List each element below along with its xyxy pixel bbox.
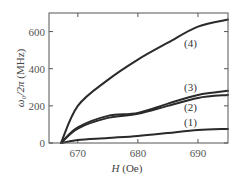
x-tick-label: 690 [190, 147, 207, 159]
curves [61, 20, 228, 144]
curve-1 [61, 129, 228, 143]
x-tick-label: 670 [70, 147, 87, 159]
y-tick-label: 600 [29, 26, 46, 38]
y-tick-label: 200 [29, 100, 46, 112]
curve-label-1: (1) [184, 116, 197, 129]
y-axis-label: ω₀/2π (MHz) [14, 48, 27, 107]
curve-label-2: (2) [184, 101, 197, 114]
y-axis-symbol: ω₀/2π [14, 81, 26, 107]
x-axis-unit: (Oe) [120, 162, 143, 175]
x-tick-label: 680 [130, 147, 147, 159]
y-tick-label: 400 [29, 63, 46, 75]
plot-frame [49, 13, 228, 143]
y-axis-unit: (MHz) [14, 48, 27, 81]
curve-label-4: (4) [184, 37, 197, 50]
x-axis-label: H (Oe) [111, 162, 143, 175]
y-tick-label: 0 [40, 137, 46, 149]
chart: 6706806900200400600 (4) (3) (2) (1) H (O… [0, 0, 240, 183]
curve-label-3: (3) [184, 81, 197, 94]
